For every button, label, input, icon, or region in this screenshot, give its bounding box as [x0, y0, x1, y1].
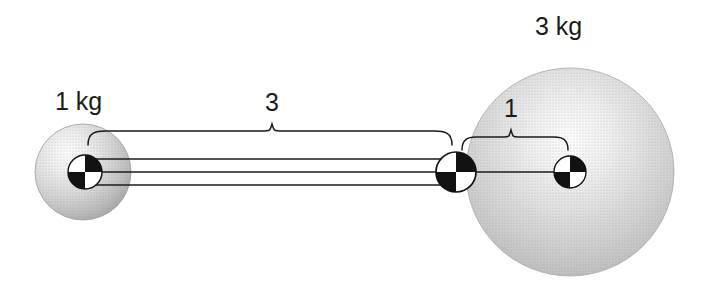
diagram-svg: 1 kg 3 kg 3 1 [0, 0, 726, 306]
com-marker-large-sphere [554, 156, 586, 188]
dimension-label-1: 1 [504, 94, 518, 122]
physics-diagram-canvas: 1 kg 3 kg 3 1 [0, 0, 726, 306]
dimension-label-3: 3 [265, 88, 279, 116]
dimension-brace-3 [88, 124, 452, 145]
small-sphere-mass-label: 1 kg [55, 87, 102, 115]
rigid-rod-connector [85, 159, 456, 185]
com-marker-system [436, 152, 476, 192]
large-sphere-mass-label: 3 kg [535, 12, 582, 40]
com-marker-small-sphere [68, 155, 102, 189]
